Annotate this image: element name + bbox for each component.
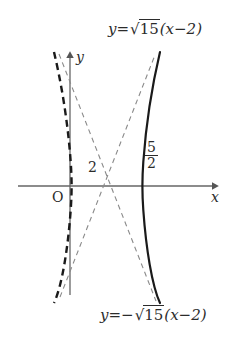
fraction-numerator: 5 <box>145 140 158 155</box>
asymptote-lower-equation-label: y=−√15(x−2) <box>100 308 207 323</box>
plot-canvas <box>0 0 250 339</box>
right-vertex-value-label: 5 2 <box>145 140 158 170</box>
asymptote-lower-radicand: 15 <box>143 305 164 324</box>
radical-group-lower: √15 <box>134 308 165 323</box>
x-axis-label: x <box>211 190 219 204</box>
asymptote-upper-factor: (x−2) <box>160 20 202 38</box>
asymptote-upper-equation-label: y=√15(x−2) <box>108 22 202 37</box>
radical-group-upper: √15 <box>129 22 160 37</box>
asymptote-positive-slope <box>60 55 155 297</box>
asymptote-upper-radicand: 15 <box>139 19 160 38</box>
fraction-five-halves: 5 2 <box>145 140 158 170</box>
asymptote-upper-equals: = <box>116 20 129 38</box>
asymptote-lower-factor: (x−2) <box>164 306 206 324</box>
hyperbola-figure: y=√15(x−2) y=−√15(x−2) O 2 y x 5 2 <box>0 0 250 339</box>
hyperbola-left-branch <box>54 52 72 303</box>
hyperbola-right-branch <box>142 52 160 303</box>
center-x-value-label: 2 <box>88 160 97 174</box>
fraction-denominator: 2 <box>145 155 158 171</box>
origin-label: O <box>52 190 63 204</box>
asymptote-lower-equals: =− <box>108 306 133 324</box>
y-axis-label: y <box>76 50 84 64</box>
